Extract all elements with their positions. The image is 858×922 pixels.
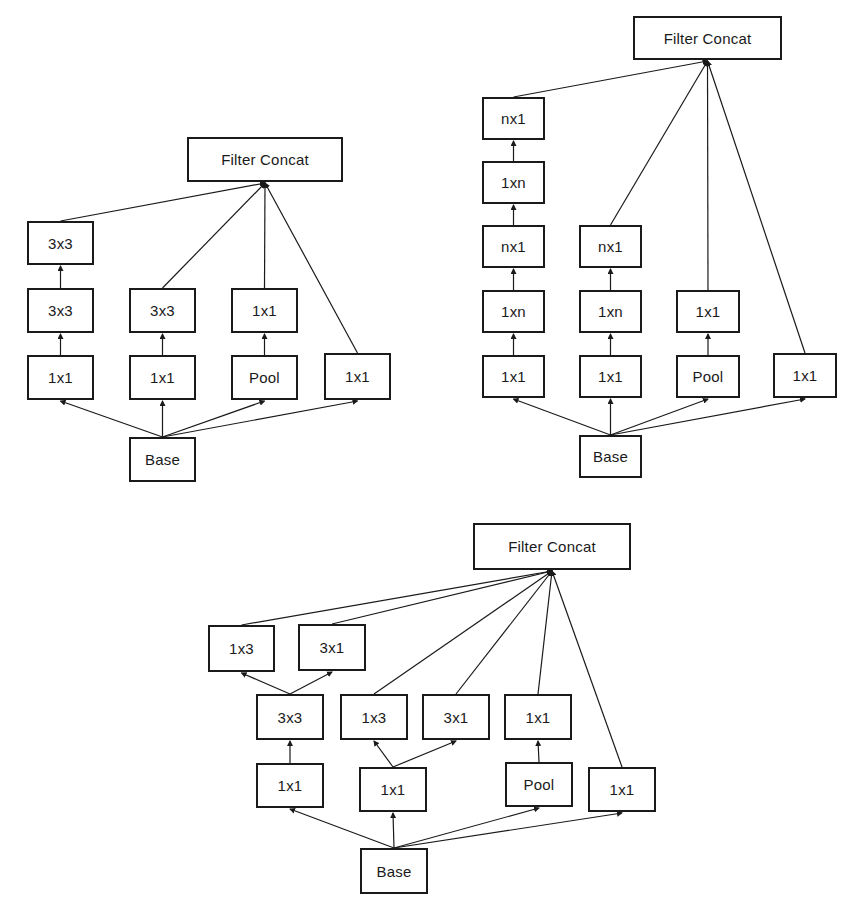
edge-b3_1x1-to-concat <box>708 61 709 290</box>
edge-base-to-b1_1x1 <box>514 399 611 435</box>
edge-base-to-b1_1x1 <box>61 401 163 437</box>
edge-b1_3x3-to-b1_3x1 <box>290 672 332 694</box>
base-node: Base <box>129 437 196 482</box>
layer-node-1x1: 1x1 <box>482 355 545 398</box>
layer-node-3x3: 3x3 <box>27 221 94 265</box>
layer-node-1x3: 1x3 <box>208 625 275 672</box>
edge-base-to-b4_1x1 <box>611 399 806 435</box>
layer-node-1x1: 1x1 <box>588 767 656 812</box>
edge-b3_1x1-to-concat <box>538 571 552 694</box>
layer-node-1x1: 1x1 <box>129 355 196 400</box>
filter-concat-node: Filter Concat <box>473 523 631 570</box>
filter-concat-node: Filter Concat <box>187 137 343 182</box>
edge-b2_1x1-to-b2_1x3 <box>374 741 393 767</box>
inception-modules-figure: Filter Concat3x33x31x13x31x11x1Pool1x1Ba… <box>0 0 858 922</box>
layer-node-3x3: 3x3 <box>256 694 324 740</box>
edge-b2_1x1-to-b2_3x1 <box>393 741 456 767</box>
layer-node-pool: Pool <box>676 355 740 398</box>
layer-node-1x1: 1x1 <box>231 288 298 333</box>
layer-node-1x1: 1x1 <box>773 353 837 398</box>
edge-b1_3x1-to-concat <box>332 571 552 624</box>
layer-node-nx1: nx1 <box>482 225 545 268</box>
edge-base-to-b3_pool <box>394 808 539 848</box>
layer-node-1xn: 1xn <box>579 290 642 333</box>
layer-node-1x1: 1x1 <box>676 290 740 333</box>
layer-node-pool: Pool <box>231 355 298 400</box>
edge-b3_1x1-to-concat <box>265 183 266 288</box>
layer-node-3x3: 3x3 <box>27 288 94 333</box>
layer-node-1x1: 1x1 <box>27 355 94 400</box>
edge-b2_1x3-to-concat <box>374 571 552 694</box>
layer-node-nx1: nx1 <box>579 225 642 268</box>
edge-b2_3x3-to-concat <box>163 183 266 288</box>
base-node: Base <box>360 848 428 894</box>
edge-base-to-b3_pool <box>611 399 709 435</box>
edge-base-to-b2_1x1 <box>393 813 394 848</box>
edge-base-to-b1_1x1 <box>290 809 394 848</box>
layer-node-1x1: 1x1 <box>579 355 642 398</box>
layer-node-1x3: 1x3 <box>340 694 408 740</box>
filter-concat-node: Filter Concat <box>633 16 782 60</box>
layer-node-1x1: 1x1 <box>324 353 391 400</box>
base-node: Base <box>579 435 642 478</box>
edge-b1_1x3-to-concat <box>242 571 553 625</box>
layer-node-1xn: 1xn <box>482 161 545 204</box>
edge-b3_pool-to-b3_1x1 <box>538 741 539 762</box>
edge-base-to-b4_1x1 <box>394 813 622 848</box>
edge-base-to-b3_pool <box>163 401 265 437</box>
layer-node-pool: Pool <box>505 762 573 807</box>
layer-node-1x1: 1x1 <box>256 763 324 808</box>
edge-b1_3x3-to-b1_1x3 <box>242 673 291 694</box>
layer-node-1xn: 1xn <box>482 290 545 333</box>
edge-b1_nx1b-to-concat <box>514 61 708 97</box>
edge-base-to-b4_1x1 <box>163 401 358 437</box>
layer-node-3x1: 3x1 <box>422 694 490 740</box>
layer-node-3x3: 3x3 <box>129 288 196 333</box>
layer-node-1x1: 1x1 <box>359 767 427 812</box>
edge-b2_3x1-to-concat <box>456 571 552 694</box>
layer-node-3x1: 3x1 <box>298 624 366 671</box>
edge-b1_3x3b-to-concat <box>61 183 266 221</box>
edge-b2_nx1-to-concat <box>611 61 708 225</box>
layer-node-nx1: nx1 <box>482 97 545 140</box>
layer-node-1x1: 1x1 <box>504 694 572 740</box>
